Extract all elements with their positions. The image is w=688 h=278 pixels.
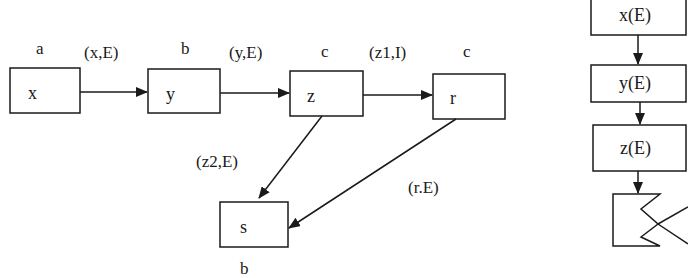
node-r-label: r [450,89,456,107]
node-z-label: z [307,87,315,105]
edge-x-y-label: (x,E) [84,44,118,61]
node-y-annotation: b [181,40,190,57]
edge-r-s [289,119,456,228]
node-z-box [290,71,363,116]
stack-label-x: x(E) [619,6,651,24]
edge-z-s [259,116,322,198]
node-x-annotation: a [36,40,44,57]
node-y-label: y [166,85,175,103]
node-x-label: x [28,84,37,102]
node-r-box [433,74,505,119]
diagram-canvas [0,0,688,278]
node-y-box [148,69,220,113]
edge-y-z-label: (y,E) [229,44,262,61]
stack-label-z: z(E) [620,139,651,157]
node-z-annotation: c [321,43,329,60]
node-s-label: s [240,218,247,236]
node-r-annotation: c [463,43,471,60]
edge-r-s-label: (r.E) [408,179,439,196]
node-x-box [10,68,80,113]
node-s-annotation: b [240,260,249,277]
stack-label-y: y(E) [619,74,651,92]
edge-z-r-label: (z1,I) [369,44,406,61]
merge-line-lower [658,224,688,244]
node-s-box [220,202,288,247]
merge-line-upper [658,207,688,224]
edge-z-s-label: (z2,E) [196,153,238,170]
notched-merge-shape [613,194,660,246]
